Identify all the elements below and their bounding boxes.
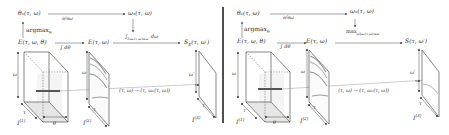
volume-tau-label: τ — [243, 108, 246, 113]
slice2-tau-label: τ — [93, 107, 96, 112]
slice2-omega-label: ω — [301, 69, 305, 74]
volume-tau-label: τ — [23, 110, 26, 115]
reduce-label: maxω|ωₑ(τ,ω)=ω′ — [346, 29, 380, 37]
argmax-label: argmaxθ — [26, 27, 51, 35]
mapping-label: (τ, ω) → (τ, ωₑ(τ, ω)) — [119, 88, 170, 93]
output-node: SE(τ, ω′) — [184, 39, 209, 47]
volume-i1-label: I(1) — [17, 119, 25, 126]
slice2-tau-label: τ — [313, 105, 316, 110]
e-node: E(τ, ω) — [306, 38, 327, 44]
slice3-omega-label: ω′ — [410, 70, 415, 75]
theta-e-node: θₑ(τ, ω) — [237, 10, 260, 16]
mapping-label: (τ, ω) → (τ, ωₑ(τ, ω)) — [338, 88, 389, 93]
slice3-omega-label: ω′ — [189, 72, 194, 77]
theta-e-node: θₑ(τ, ω) — [18, 10, 41, 16]
slice2-i2-label: I(2) — [300, 117, 308, 124]
reduce-label: ∫δωₑ(τ,ω)=ω′ dω — [125, 34, 158, 42]
integral-theta-label: ∫ dθ — [280, 44, 290, 49]
volume-theta-label: θ — [53, 121, 56, 126]
e-full-node: E(τ, ω, θ) — [237, 38, 266, 44]
slice-i3 — [195, 50, 216, 118]
derivative-label: ∂/∂ω — [62, 16, 73, 21]
omega-e-node: ωₑ(τ, ω) — [128, 10, 152, 16]
volume-theta-label: θ — [273, 120, 276, 125]
integral-theta-label: ∫ dθ — [60, 45, 70, 50]
slice-i2 — [86, 51, 109, 127]
volume-omega-label: ω — [13, 72, 17, 77]
e-node: E(τ, ω) — [88, 39, 109, 45]
argmax-label: argmaxθ — [244, 26, 269, 34]
output-node: S(τ, ω′) — [405, 38, 427, 44]
slice3-i3-label: I(3) — [413, 114, 421, 121]
slice3-tau-label: τ — [419, 101, 422, 106]
e-full-node: E(τ, ω, θ) — [18, 39, 47, 45]
omega-e-node: ωₑ(τ, ω) — [350, 8, 374, 14]
slice3-i3-label: I(3) — [192, 116, 200, 123]
slice2-omega-label: ω — [82, 70, 86, 75]
volume-i1-label: I(1) — [236, 118, 244, 125]
slice2-i2-label: I(2) — [83, 119, 91, 126]
diagram: θₑ(τ, ω) ωₑ(τ, ω) ∂/∂ω argmaxθ E(τ, ω, θ… — [0, 0, 449, 135]
volume-omega-label: ω — [232, 71, 236, 76]
slice3-tau-label: τ — [202, 103, 205, 108]
derivative-label: ∂/∂ω — [283, 15, 294, 20]
